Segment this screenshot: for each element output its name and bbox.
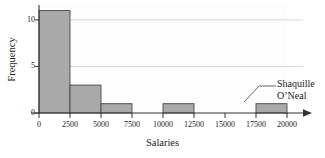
bar-5000-7500 [101, 104, 132, 113]
bar-10000-12500 [163, 104, 194, 113]
annotation-line-1: Shaquille [277, 78, 315, 90]
bar-2500-5000 [70, 85, 101, 113]
x-axis-title: Salaries [0, 138, 325, 149]
x-axis-arrowhead [303, 109, 312, 117]
y-tick-label-10: 10 [14, 16, 35, 24]
y-axis-ticks [35, 20, 39, 113]
histogram-figure: Frequency Salaries 025005000750010000125… [0, 0, 325, 158]
annotation-line-2: O’Neal [277, 90, 315, 102]
x-axis-ticks [39, 113, 287, 118]
y-tick-label-5: 5 [14, 62, 35, 70]
shaquille-oneal-annotation: Shaquille O’Neal [277, 78, 315, 101]
y-axis-title: Frequency [6, 28, 17, 92]
bar-0-2500 [39, 11, 70, 113]
y-tick-label-0: 0 [14, 109, 35, 117]
x-tick-label-20000: 20000 [267, 121, 307, 129]
bar-17500-20000 [256, 104, 287, 113]
